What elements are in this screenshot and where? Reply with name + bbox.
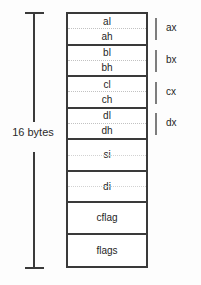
bracket-label-dx: dx	[166, 117, 177, 128]
bracket-label-bx: bx	[166, 54, 177, 65]
register-cell-cl: cl	[68, 77, 146, 92]
bracket-tick-ax	[155, 18, 157, 40]
dimension-cap-bottom	[25, 267, 44, 269]
register-cell-ch: ch	[68, 92, 146, 106]
dimension-stem-upper	[33, 13, 35, 122]
register-cell-dh: dh	[68, 124, 146, 138]
size-label: 16 bytes	[0, 126, 66, 139]
register-row-ax: al ah	[68, 14, 146, 46]
register-cell-bh: bh	[68, 61, 146, 75]
register-cell-di: di	[103, 181, 111, 192]
register-row-flags: flags	[68, 235, 146, 267]
bracket-tick-cx	[155, 82, 157, 104]
register-cell-flags: flags	[96, 245, 117, 256]
register-row-cx: cl ch	[68, 77, 146, 109]
bracket-label-cx: cx	[166, 86, 176, 97]
register-layout-diagram: 16 bytes al ah bl bh cl ch dl dh si di c…	[0, 0, 201, 285]
bracket-tick-bx	[155, 50, 157, 72]
register-cell-bl: bl	[68, 46, 146, 61]
register-cell-al: al	[68, 14, 146, 29]
register-row-bx: bl bh	[68, 46, 146, 78]
register-row-di: di	[68, 172, 146, 204]
register-row-dx: dl dh	[68, 109, 146, 141]
register-cell-cflag: cflag	[96, 212, 117, 223]
register-row-si: si	[68, 140, 146, 172]
register-cell-si: si	[103, 149, 110, 160]
register-box: al ah bl bh cl ch dl dh si di cflag flag…	[66, 12, 148, 268]
register-row-cflag: cflag	[68, 203, 146, 235]
register-cell-dl: dl	[68, 109, 146, 124]
bracket-label-ax: ax	[166, 22, 177, 33]
bracket-tick-dx	[155, 113, 157, 135]
register-cell-ah: ah	[68, 29, 146, 43]
dimension-stem-lower	[33, 152, 35, 268]
